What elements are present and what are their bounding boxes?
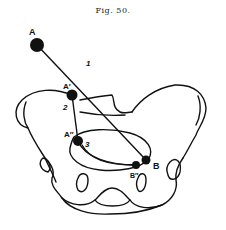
label-A-double-prime: A″ — [64, 130, 74, 139]
label-B: B — [153, 161, 160, 171]
label-B-double-prime: B″ — [130, 172, 139, 179]
pubic-arch — [95, 188, 130, 206]
left-obturator — [77, 174, 89, 192]
pelvis-diagram: A A′ A″ B B″ 1 2 3 — [0, 0, 226, 230]
label-A-prime: A′ — [63, 82, 71, 91]
point-A-double-prime — [73, 136, 83, 146]
line-1-A-to-B — [37, 45, 146, 160]
label-A: A — [29, 27, 36, 37]
point-A — [30, 38, 44, 52]
point-A-prime — [67, 90, 78, 101]
point-B — [142, 156, 151, 165]
right-iliac-inner — [196, 96, 200, 125]
segment-label-1: 1 — [86, 59, 91, 68]
segment-label-3: 3 — [85, 140, 90, 149]
right-iliac-crest — [132, 85, 206, 158]
segment-label-2: 2 — [62, 103, 68, 112]
right-sciatic-lump — [167, 160, 181, 180]
left-iliac-inner — [24, 102, 28, 128]
point-B-double-prime — [132, 161, 140, 169]
